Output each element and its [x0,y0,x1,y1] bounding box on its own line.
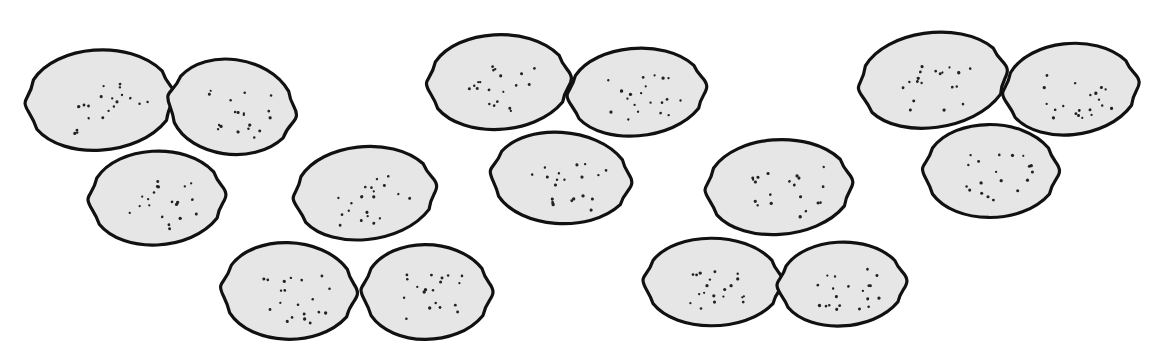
lemon [643,238,783,325]
lemon-drawing [0,0,1157,360]
group-3 [424,31,710,229]
group-2 [219,139,493,341]
lemon [775,239,909,330]
lemon [361,245,493,340]
lemon [161,51,303,163]
group-4 [643,135,909,330]
lemon [289,139,442,246]
lemon-illustration [0,0,1157,360]
lemon [563,42,710,141]
lemon [702,135,856,240]
lemon [923,125,1060,218]
lemon [424,31,574,133]
lemon [852,23,1014,138]
lemon [487,128,635,229]
group-5 [852,23,1144,218]
lemon [22,45,179,155]
lemon [219,240,359,341]
group-1 [22,45,303,249]
lemon [86,148,229,249]
lemon [998,37,1144,142]
